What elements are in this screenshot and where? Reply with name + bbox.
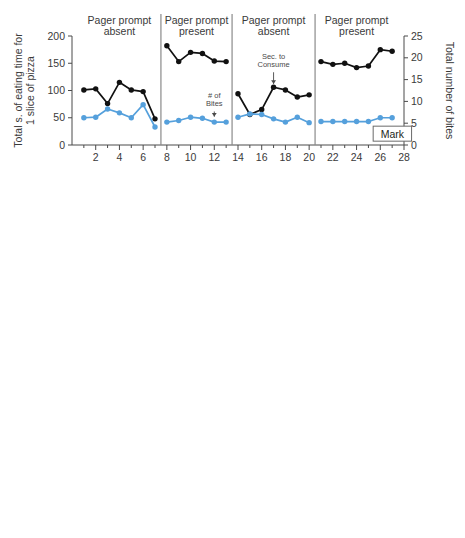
x-tick-label: 22 [327,151,339,163]
seconds-series-line [238,87,309,114]
phase-label: present [179,25,214,37]
x-tick-label: 12 [208,151,220,163]
bites-data-point [247,111,252,116]
chart-panel-jack: 0501001502002500510152025123456789101112… [0,182,465,360]
right-tick-label: 15 [411,73,423,85]
seconds-data-point [140,89,145,94]
bites-data-point [117,110,122,115]
x-tick-label: 18 [280,151,292,163]
seconds-data-point [93,86,98,91]
chart-svg-john: 025507510005101520251234567891011121314P… [0,360,465,538]
seconds-series-line [167,46,226,62]
right-tick-label: 25 [411,30,423,42]
seconds-data-point [129,87,134,92]
bites-data-point [93,115,98,120]
seconds-data-point [105,101,110,106]
seconds-data-point [354,65,359,70]
left-tick-label: 150 [47,57,65,69]
annotation-arrowhead [212,113,217,117]
right-tick-label: 20 [411,51,423,63]
x-tick-label: 2 [93,151,99,163]
bites-data-point [81,115,86,120]
seconds-data-point [306,92,311,97]
bites-data-point [354,119,359,124]
chart-svg-jack: 0501001502002500510152025123456789101112… [0,182,465,360]
left-tick-label: 0 [59,139,65,151]
bites-data-point [129,115,134,120]
bites-data-point [235,115,240,120]
participant-name-label: Mark [381,128,405,140]
x-tick-label: 10 [185,151,197,163]
seconds-data-point [366,63,371,68]
annotation-bites-line2: Bites [206,99,223,108]
seconds-data-point [330,62,335,67]
seconds-data-point [389,49,394,54]
bites-data-point [378,115,383,120]
seconds-data-point [117,80,122,85]
x-tick-label: 20 [303,151,315,163]
bites-data-point [318,119,323,124]
seconds-data-point [235,91,240,96]
seconds-data-point [188,50,193,55]
bites-data-point [283,119,288,124]
seconds-data-point [164,43,169,48]
left-tick-label: 200 [47,30,65,42]
bites-data-point [271,116,276,121]
x-tick-label: 24 [351,151,363,163]
bites-data-point [140,102,145,107]
bites-data-point [105,106,110,111]
bites-data-point [164,119,169,124]
chart-panel-john: 025507510005101520251234567891011121314P… [0,360,465,538]
x-tick-label: 6 [140,151,146,163]
x-tick-label: 4 [117,151,123,163]
seconds-data-point [378,47,383,52]
seconds-data-point [283,87,288,92]
bites-data-point [259,112,264,117]
bites-data-point [200,116,205,121]
y-axis-title-left: Total s. of eating time for [12,33,24,148]
right-tick-label: 10 [411,95,423,107]
bites-data-point [342,119,347,124]
left-tick-label: 50 [53,111,65,123]
seconds-data-point [152,116,157,121]
multi-panel-figure: 0501001502000510152025246810121416182022… [0,0,465,538]
bites-data-point [330,119,335,124]
bites-data-point [223,119,228,124]
chart-panel-mark: 0501001502000510152025246810121416182022… [0,0,465,182]
chart-svg-mark: 0501001502000510152025246810121416182022… [0,0,465,182]
bites-data-point [306,120,311,125]
seconds-data-point [81,87,86,92]
phase-label: absent [104,25,136,37]
bites-data-point [188,115,193,120]
bites-data-point [152,124,157,129]
seconds-data-point [212,58,217,63]
seconds-data-point [223,59,228,64]
x-tick-label: 28 [398,151,410,163]
seconds-data-point [259,107,264,112]
phase-label: absent [258,25,290,37]
annotation-seconds-line2: Consume [258,60,290,69]
seconds-data-point [295,94,300,99]
x-tick-label: 8 [164,151,170,163]
x-tick-label: 26 [374,151,386,163]
bites-data-point [212,119,217,124]
y-axis-title-right: Total number of bites [444,42,456,139]
seconds-data-point [271,85,276,90]
bites-data-point [366,119,371,124]
bites-series-line [167,117,226,122]
phase-label: present [339,25,374,37]
seconds-data-point [200,51,205,56]
bites-data-point [176,118,181,123]
left-tick-label: 100 [47,84,65,96]
annotation-arrowhead [271,80,276,84]
seconds-data-point [176,59,181,64]
x-tick-label: 16 [256,151,268,163]
bites-data-point [295,115,300,120]
x-tick-label: 14 [232,151,244,163]
bites-data-point [389,115,394,120]
seconds-data-point [318,59,323,64]
y-axis-title-left-line2: 1 slice of pizza [24,56,36,125]
seconds-data-point [342,61,347,66]
